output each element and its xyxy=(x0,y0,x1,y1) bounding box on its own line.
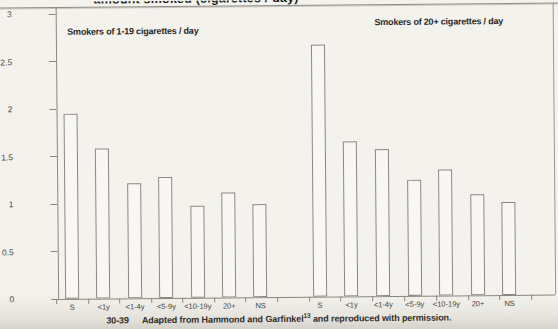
x-tick-label: S xyxy=(317,301,322,310)
bar-1-19-S xyxy=(64,114,80,299)
x-axis-tick xyxy=(246,297,247,302)
y-axis-line xyxy=(56,7,60,299)
x-axis-tick xyxy=(499,295,500,300)
bar-1-19-<5-9y xyxy=(158,177,173,298)
bar-20plus-S xyxy=(311,45,327,297)
bar-20plus-NS xyxy=(502,202,517,295)
x-axis-tick xyxy=(151,298,152,303)
bar-20plus-<1y xyxy=(343,141,358,296)
y-axis-tick-label: 0.5 xyxy=(1,247,14,257)
caption-text: Adapted from Hammond and Garfinkel xyxy=(142,314,304,325)
x-axis-tick xyxy=(214,298,215,303)
x-tick-label: 20+ xyxy=(223,301,236,310)
bar-1-19-20+ xyxy=(221,192,236,298)
x-axis-tick xyxy=(372,296,373,301)
x-tick-label: <5-9y xyxy=(157,302,176,311)
x-tick-label: 20+ xyxy=(472,299,485,308)
bar-1-19-<1-4y xyxy=(127,183,142,298)
scanned-page: amount smoked (cigarettes / day) Smokers… xyxy=(0,0,558,329)
x-tick-label: <10-19y xyxy=(433,299,460,308)
x-tick-label: <5-9y xyxy=(405,300,424,309)
bar-1-19-<1y xyxy=(95,148,110,298)
x-axis-tick xyxy=(404,296,405,301)
x-tick-label: <1-4y xyxy=(374,300,393,309)
y-axis-tick xyxy=(51,251,58,252)
x-tick-label: <10-19y xyxy=(184,302,211,311)
bar-20plus-<5-9y xyxy=(407,180,422,296)
y-axis-tick-label: 1 xyxy=(0,199,13,209)
bar-20plus-<1-4y xyxy=(375,149,390,296)
x-tick-label: NS xyxy=(504,299,515,308)
x-tick-label: <1y xyxy=(97,302,109,311)
figure-number: 30-39 xyxy=(106,315,129,325)
x-axis-tick xyxy=(88,299,89,304)
chart-right-border xyxy=(553,3,557,295)
x-tick-label: NS xyxy=(255,301,266,310)
x-tick-label: S xyxy=(70,303,75,312)
bar-20plus-20+ xyxy=(470,195,485,296)
bar-1-19-NS xyxy=(253,204,268,297)
bar-20plus-<10-19y xyxy=(438,169,453,295)
y-axis-tick-label: 2 xyxy=(0,104,13,114)
bar-chart: Smokers of 1-19 cigarettes / day Smokers… xyxy=(0,0,558,329)
x-axis-tick xyxy=(531,295,532,300)
bar-1-19-<10-19y xyxy=(190,206,205,298)
x-axis-tick xyxy=(468,295,469,300)
group-title-20plus: Smokers of 20+ cigarettes / day xyxy=(374,16,503,27)
caption-text-end: and reproduced with permission. xyxy=(310,313,451,324)
x-axis-tick xyxy=(183,298,184,303)
y-axis-tick xyxy=(50,203,57,204)
x-tick-label: <1-4y xyxy=(126,302,145,311)
y-axis-tick xyxy=(50,156,57,157)
group-title-1-19: Smokers of 1-19 cigarettes / day xyxy=(67,26,198,37)
x-axis-tick xyxy=(436,296,437,301)
y-axis-tick-label: 3 xyxy=(0,9,12,19)
y-axis-tick xyxy=(50,108,57,109)
x-axis-tick xyxy=(340,296,341,301)
y-axis-tick-label: 1.5 xyxy=(0,152,13,162)
x-axis-tick xyxy=(57,299,58,304)
y-axis-tick-label: 0 xyxy=(1,294,14,304)
x-axis-tick xyxy=(277,297,278,302)
y-axis-tick xyxy=(49,61,56,62)
y-axis-tick xyxy=(49,13,56,14)
x-axis-tick xyxy=(120,298,121,303)
x-tick-label: <1y xyxy=(345,300,357,309)
y-axis-tick-label: 2.5 xyxy=(0,57,12,67)
x-axis-tick xyxy=(309,297,310,302)
